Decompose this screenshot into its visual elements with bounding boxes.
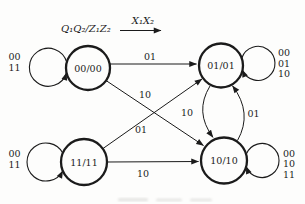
self-loop-input-label-10-10-b: 10 [283,158,295,169]
transition-label-00-00-to-10-10: 10 [139,89,151,100]
self-loop-input-label-01-01-b: 01 [278,58,290,69]
self-loop-input-label-10-10-a: 00 [283,148,295,159]
transition-label-11-11-to-01-01: 01 [135,124,147,135]
self-loop-arc-01-01 [242,46,275,80]
state-label-00-00: 00/00 [74,63,101,74]
transition-label-11-11-to-10-10: 10 [137,168,149,179]
transition-arrow-01-01-to-10-10 [203,86,213,137]
self-loop-arc-10-10 [246,144,279,178]
transition-label-10-10-to-01-01: 01 [247,108,259,119]
transition-label-00-00-to-01-01: 01 [144,51,156,62]
state-label-11-11: 11/11 [70,157,97,168]
diagram-canvas: Q₁Q₂/Z₁Z₂ X₁X₂ 00/00 01/01 11/11 10/10 0… [0,0,305,204]
state-transition-diagram: Q₁Q₂/Z₁Z₂ X₁X₂ 00/00 01/01 11/11 10/10 0… [0,0,305,204]
self-loop-input-label-10-10-c: 11 [283,169,295,180]
self-loop-input-label-01-01-a: 00 [278,47,290,58]
state-label-10-10: 10/10 [210,155,237,166]
self-loop-input-label-00-00-a: 00 [9,51,21,62]
self-loop-input-label-11-11-b: 11 [9,159,21,170]
self-loop-arc-11-11 [27,143,63,181]
transition-arrow-10-10-to-01-01 [233,86,245,141]
state-label-01-01: 01/01 [207,60,234,71]
legend-state-format-label: Q₁Q₂/Z₁Z₂ [61,23,111,34]
caption-remnant [118,198,212,202]
transition-label-01-01-to-10-10: 10 [181,107,193,118]
self-loop-input-label-00-00-b: 11 [9,62,21,73]
self-loop-arc-00-00 [29,48,66,86]
transition-arrow-11-11-to-10-10 [107,162,199,163]
legend-input-format-label: X₁X₂ [131,15,154,26]
self-loop-input-label-11-11-a: 00 [9,148,21,159]
self-loop-input-label-01-01-c: 10 [278,68,290,79]
